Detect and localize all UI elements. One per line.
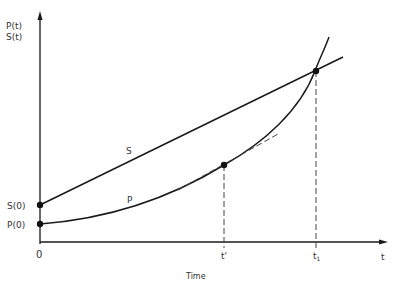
p0-label: P(0) (7, 220, 25, 230)
s0-point (37, 202, 43, 208)
tprime-label: t' (221, 251, 227, 261)
y-axis-arrow-icon (38, 11, 43, 20)
tangent-point (221, 162, 227, 168)
t1-label: t1 (313, 251, 321, 262)
y-axis-label-s: S(t) (6, 32, 22, 42)
x-axis-label: t (381, 252, 385, 262)
x-axis-arrow-icon (379, 240, 388, 245)
intersection-point (313, 68, 319, 74)
origin-label: 0 (36, 249, 42, 260)
x-axis-title: Time (185, 272, 206, 281)
p0-point (37, 221, 43, 227)
curve-p-label: P (127, 195, 133, 205)
s0-label: S(0) (7, 201, 25, 211)
y-axis-label-p: P(t) (6, 21, 22, 31)
population-supply-diagram: P(t) S(t) S(0) P(0) 0 S P t' t1 t Time (0, 0, 399, 291)
curve-p (40, 37, 329, 224)
curve-s-label: S (126, 146, 132, 156)
